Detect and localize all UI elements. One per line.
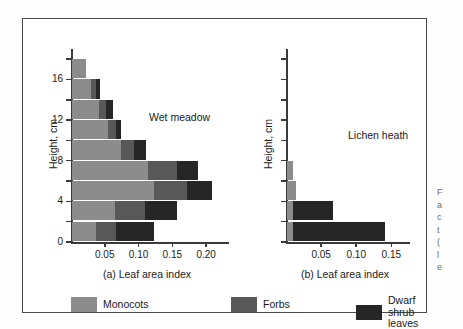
bar-a-8-10 <box>72 140 146 159</box>
panel-a-x-tick <box>172 242 174 247</box>
panel-a-y-tick-label: 0 <box>57 237 63 247</box>
bar-segment-monocots <box>72 59 86 78</box>
panel-a-y-tick <box>66 119 71 121</box>
side-caption-line: l <box>437 249 463 262</box>
bar-b-4-6 <box>287 181 296 200</box>
bar-a-0-2 <box>72 222 154 241</box>
panel-a-y-tick <box>66 221 71 223</box>
panel-a-y-tick-label: 8 <box>57 156 63 166</box>
legend-item-monocots: Monocots <box>71 297 149 312</box>
panel-b-y-tick <box>281 221 286 223</box>
panel-b-x-tick <box>355 242 357 247</box>
bar-a-16-18 <box>72 59 86 78</box>
legend-item-forbs: Forbs <box>231 297 290 312</box>
bar-segment-dwarf-shrub-leaves <box>116 222 155 241</box>
bar-segment-forbs <box>108 120 116 139</box>
bar-b-6-8 <box>287 161 293 180</box>
bar-segment-dwarf-shrub-leaves <box>187 181 213 200</box>
bar-segment-monocots <box>72 79 91 98</box>
bar-segment-forbs <box>115 201 145 220</box>
panel-a-plot-area: Wet meadow 04812160.050.100.150.20 <box>71 49 223 242</box>
bar-segment-dwarf-shrub-leaves <box>116 120 121 139</box>
panel-b-x-tick-label: 0.15 <box>382 250 401 260</box>
panel-b-y-tick <box>281 58 286 60</box>
bar-segment-dwarf-shrub-leaves <box>134 140 146 159</box>
panel-a-x-tick-label: 0.05 <box>95 250 114 260</box>
bar-segment-monocots <box>287 161 293 180</box>
bar-segment-monocots <box>72 100 99 119</box>
panel-b-y-tick <box>281 241 286 243</box>
panel-a-y-tick-label: 4 <box>57 196 63 206</box>
panel-b-y-tick <box>281 180 286 182</box>
panel-b-y-tick <box>281 140 286 142</box>
bar-segment-dwarf-shrub-leaves <box>106 100 112 119</box>
panel-b-y-tick <box>281 119 286 121</box>
side-caption-cropped: Fact(le <box>437 186 463 306</box>
panel-a-y-tick <box>66 58 71 60</box>
bar-segment-dwarf-shrub-leaves <box>145 201 177 220</box>
side-caption-line: t <box>437 224 463 237</box>
bar-segment-monocots <box>72 201 115 220</box>
bar-a-6-8 <box>72 161 198 180</box>
bar-segment-monocots <box>72 181 154 200</box>
panel-a-y-tick-label: 12 <box>52 115 63 125</box>
bar-segment-monocots <box>72 222 96 241</box>
side-caption-line: ( <box>437 236 463 249</box>
panel-b-x-tick <box>320 242 322 247</box>
panel-wet-meadow: Height, cm Wet meadow 04812160.050.100.1… <box>23 19 238 314</box>
legend-swatch <box>231 297 257 312</box>
panel-a-x-tick <box>104 242 106 247</box>
panel-a-y-tick <box>66 241 71 243</box>
panel-a-x-tick-label: 0.20 <box>196 250 215 260</box>
panel-a-x-tick-label: 0.10 <box>129 250 148 260</box>
panel-a-title: Wet meadow <box>149 111 210 123</box>
bar-b-0-2 <box>287 222 385 241</box>
bar-a-12-14 <box>72 100 113 119</box>
bar-segment-forbs <box>99 100 106 119</box>
panel-a-y-tick <box>66 140 71 142</box>
panel-b-x-tick-label: 0.05 <box>311 250 330 260</box>
bar-a-4-6 <box>72 181 213 200</box>
panel-a-x-tick <box>138 242 140 247</box>
bar-segment-monocots <box>72 140 121 159</box>
legend-label: Monocots <box>103 299 149 311</box>
bar-a-10-12 <box>72 120 121 139</box>
legend-label: Forbs <box>263 299 290 311</box>
figure-page: Height, cm Wet meadow 04812160.050.100.1… <box>0 0 463 329</box>
figure-frame: Height, cm Wet meadow 04812160.050.100.1… <box>22 18 427 313</box>
bar-b-2-4 <box>287 201 333 220</box>
side-caption-line: F <box>437 186 463 199</box>
bar-segment-forbs <box>96 222 116 241</box>
panel-a-x-axis-title: (a) Leaf area index <box>103 268 191 280</box>
bar-segment-dwarf-shrub-leaves <box>293 222 385 241</box>
legend-swatch <box>356 305 382 320</box>
bar-segment-forbs <box>148 161 176 180</box>
bar-segment-dwarf-shrub-leaves <box>96 79 100 98</box>
panel-b-y-tick <box>281 201 286 203</box>
panel-a-y-tick <box>66 79 71 81</box>
panel-b-plot-area: Lichen heath 0.050.100.15 <box>286 49 404 242</box>
side-caption-line: a <box>437 199 463 212</box>
panel-a-y-tick <box>66 99 71 101</box>
panel-b-x-axis-title: (b) Leaf area index <box>301 268 389 280</box>
panel-b-y-tick <box>281 79 286 81</box>
bar-segment-monocots <box>287 181 296 200</box>
panel-a-y-tick <box>66 201 71 203</box>
side-caption-line: c <box>437 211 463 224</box>
panel-b-x-tick <box>391 242 393 247</box>
legend-item-dwarf: Dwarf shrub leaves <box>356 295 421 329</box>
panel-a-x-tick <box>205 242 207 247</box>
panel-b-y-axis-title: Height, cm <box>262 104 274 184</box>
bar-segment-dwarf-shrub-leaves <box>177 161 198 180</box>
legend-label: Dwarf shrub leaves <box>388 295 421 329</box>
panel-b-x-tick-label: 0.10 <box>347 250 366 260</box>
panel-a-y-tick-label: 16 <box>52 74 63 84</box>
bar-segment-monocots <box>72 161 148 180</box>
bar-segment-monocots <box>72 120 108 139</box>
panel-a-y-tick <box>66 180 71 182</box>
panel-a-x-tick-label: 0.15 <box>163 250 182 260</box>
bar-segment-forbs <box>154 181 186 200</box>
bar-a-2-4 <box>72 201 177 220</box>
side-caption-line: e <box>437 261 463 274</box>
panel-b-title: Lichen heath <box>348 129 408 141</box>
